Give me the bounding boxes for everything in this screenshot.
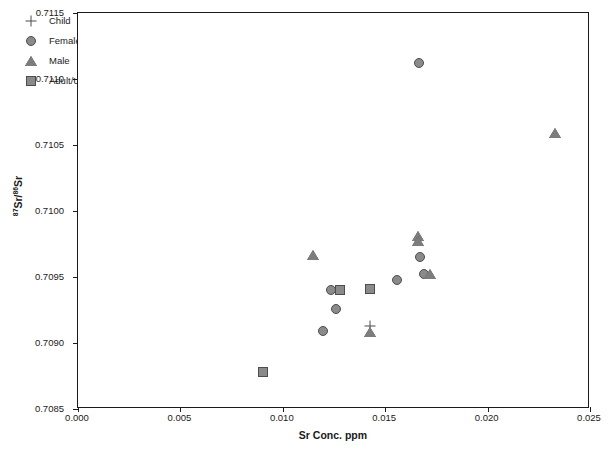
- data-point-square: [335, 285, 345, 295]
- data-point-triangle: [364, 327, 376, 337]
- y-axis-tick-label: 0.7115: [0, 7, 64, 18]
- y-axis-tick-label: 0.7105: [0, 139, 64, 150]
- x-axis-tick-label: 0.020: [475, 412, 499, 423]
- y-axis-label-end: Sr: [12, 176, 24, 187]
- data-point-circle: [331, 304, 341, 314]
- x-axis-tick-label: 0.025: [577, 412, 601, 423]
- y-axis-label-sup-86: 86: [12, 187, 19, 195]
- data-point-square: [365, 284, 375, 294]
- y-axis-tick-label: 0.7090: [0, 337, 64, 348]
- data-point-triangle: [424, 269, 436, 279]
- y-axis-tick-label: 0.7100: [0, 205, 64, 216]
- data-point-triangle: [412, 236, 424, 246]
- x-axis-tick-label: 0.000: [65, 412, 89, 423]
- y-axis-tick: [73, 409, 78, 410]
- data-point-triangle: [549, 128, 561, 138]
- y-axis-tick: [73, 79, 78, 80]
- y-axis-tick-label: 0.7095: [0, 271, 64, 282]
- y-axis-tick-label: 0.7110: [0, 73, 64, 84]
- circle-marker-icon: [22, 34, 40, 47]
- y-axis-tick: [73, 13, 78, 14]
- y-axis-tick: [73, 211, 78, 212]
- data-point-circle: [318, 326, 328, 336]
- legend-label-male: Male: [49, 55, 70, 66]
- data-point-square: [258, 367, 268, 377]
- x-axis-label: Sr Conc. ppm: [77, 429, 589, 441]
- y-axis-tick: [73, 145, 78, 146]
- y-axis-tick: [73, 343, 78, 344]
- scatter-chart-figure: Child Female Male Adult/Unknown Sr Conc.…: [0, 0, 612, 451]
- x-axis-tick-label: 0.010: [270, 412, 294, 423]
- triangle-marker-icon: [22, 54, 40, 67]
- data-point-circle: [415, 252, 425, 262]
- x-axis-tick-label: 0.005: [168, 412, 192, 423]
- data-point-triangle: [307, 250, 319, 260]
- x-axis-tick-label: 0.015: [372, 412, 396, 423]
- data-point-circle: [392, 275, 402, 285]
- data-point-circle: [414, 58, 424, 68]
- y-axis-tick-label: 0.7085: [0, 403, 64, 414]
- plot-area: [77, 12, 589, 408]
- legend-label-female: Female: [49, 35, 81, 46]
- y-axis-tick: [73, 277, 78, 278]
